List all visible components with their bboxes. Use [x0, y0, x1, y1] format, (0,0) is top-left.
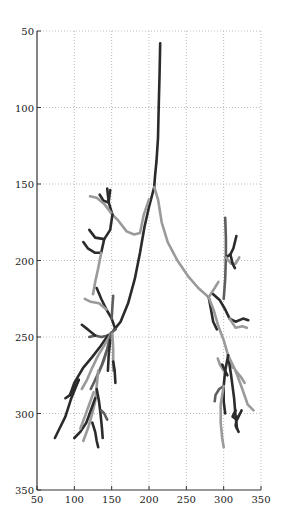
branch-left-lower-right-tip [113, 362, 115, 383]
x-tick-label: 200 [139, 494, 158, 505]
x-tick-label: 250 [177, 494, 196, 505]
y-tick-label: 100 [15, 103, 34, 114]
y-tick-label: 200 [15, 256, 34, 267]
y-tick-label: 350 [15, 485, 34, 496]
branch-right-lower-left-dark [224, 355, 228, 413]
branch-left-lower-far-3 [55, 380, 79, 438]
y-tick-label: 50 [21, 26, 34, 37]
branch-left-lower-bent [82, 325, 95, 336]
branch-right-upper-twig [230, 254, 235, 268]
branch-left-mid-branch-2 [83, 239, 104, 253]
x-tick-label: 100 [65, 494, 84, 505]
branch-right-mid-dark-b [213, 294, 248, 322]
x-tick-label: 150 [102, 494, 121, 505]
y-tick-label: 300 [15, 409, 34, 420]
branch-left-lower-hz [89, 336, 108, 338]
y-tick-label: 250 [15, 332, 34, 343]
airway-tree-plot: 50100150200250300350 5010015020025030035… [0, 0, 282, 523]
branch-left-mid-branch [89, 215, 112, 240]
x-tick-label: 300 [214, 494, 233, 505]
branch-left-bottom-dark-c [92, 423, 98, 448]
branch-right-main [154, 187, 209, 297]
branch-trunk [154, 43, 160, 187]
y-tick-label: 150 [15, 179, 34, 190]
branch-left-upper-twig-d [109, 190, 111, 202]
branch-right-lower-left-light [221, 386, 224, 447]
branch-left-main [113, 187, 154, 331]
x-tick-label: 350 [251, 494, 270, 505]
x-axis-ticks: 50100150200250300350 [31, 486, 271, 505]
branch-left-lower-a-twig [112, 296, 114, 319]
